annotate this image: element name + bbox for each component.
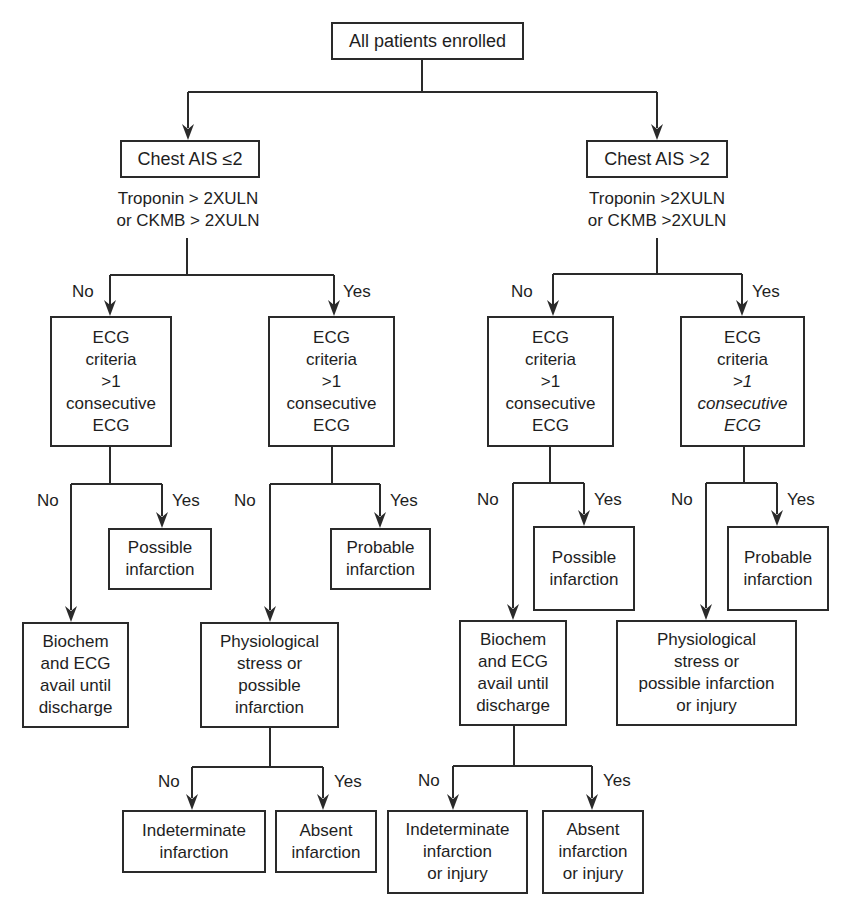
right-probable-infarction-box: Probable infarction	[727, 526, 829, 611]
right-group-box-chest-ais: Chest AIS >2	[586, 140, 728, 178]
right-biochem-no-label: No	[418, 771, 440, 791]
left-criterion-text: Troponin > 2XULN or CKMB > 2XULN	[88, 188, 288, 232]
right-no-ecg-no-label: No	[477, 490, 499, 510]
left-no-ecg-criteria-box: ECG criteria >1 consecutive ECG	[50, 316, 172, 447]
left-indeterminate-infarction-box: Indeterminate infarction	[122, 810, 266, 873]
left-possible-infarction-box: Possible infarction	[108, 528, 212, 590]
left-probable-infarction-box: Probable infarction	[330, 528, 431, 590]
root-label: All patients enrolled	[349, 30, 506, 52]
left-no-ecg-yes-label: Yes	[172, 491, 200, 511]
left-yes-ecg-criteria-box: ECG criteria >1 consecutive ECG	[268, 316, 395, 447]
right-absent-infarction-injury-box: Absent infarction or injury	[542, 810, 644, 894]
left-physiological-stress-box: Physiological stress or possible infarct…	[200, 622, 339, 728]
right-yes-ecg-criteria-box: ECG criteria >1 consecutive ECG	[680, 316, 805, 447]
left-biochem-ecg-box: Biochem and ECG avail until discharge	[22, 622, 129, 728]
left-physio-no-label: No	[158, 772, 180, 792]
right-possible-infarction-box: Possible infarction	[533, 526, 635, 611]
root-box-all-patients: All patients enrolled	[331, 22, 524, 60]
left-no-label: No	[72, 282, 94, 302]
right-biochem-yes-label: Yes	[603, 771, 631, 791]
left-yes-label: Yes	[343, 282, 371, 302]
right-physiological-stress-box: Physiological stress or possible infarct…	[616, 620, 797, 726]
left-physio-yes-label: Yes	[334, 772, 362, 792]
left-no-ecg-no-label: No	[37, 491, 59, 511]
right-no-ecg-yes-label: Yes	[594, 490, 622, 510]
right-criterion-text: Troponin >2XULN or CKMB >2XULN	[557, 188, 757, 232]
right-no-label: No	[511, 282, 533, 302]
right-biochem-ecg-box: Biochem and ECG avail until discharge	[459, 620, 567, 726]
right-yes-label: Yes	[752, 282, 780, 302]
right-yes-ecg-yes-label: Yes	[787, 490, 815, 510]
right-yes-ecg-no-label: No	[671, 490, 693, 510]
left-group-box-chest-ais: Chest AIS ≤2	[120, 140, 260, 178]
left-yes-ecg-yes-label: Yes	[390, 491, 418, 511]
left-group-label: Chest AIS ≤2	[138, 148, 243, 170]
right-indeterminate-infarction-injury-box: Indeterminate infarction or injury	[387, 810, 528, 894]
right-no-ecg-criteria-box: ECG criteria >1 consecutive ECG	[487, 316, 614, 447]
right-group-label: Chest AIS >2	[604, 148, 710, 170]
left-absent-infarction-box: Absent infarction	[275, 810, 377, 873]
left-yes-ecg-no-label: No	[234, 491, 256, 511]
